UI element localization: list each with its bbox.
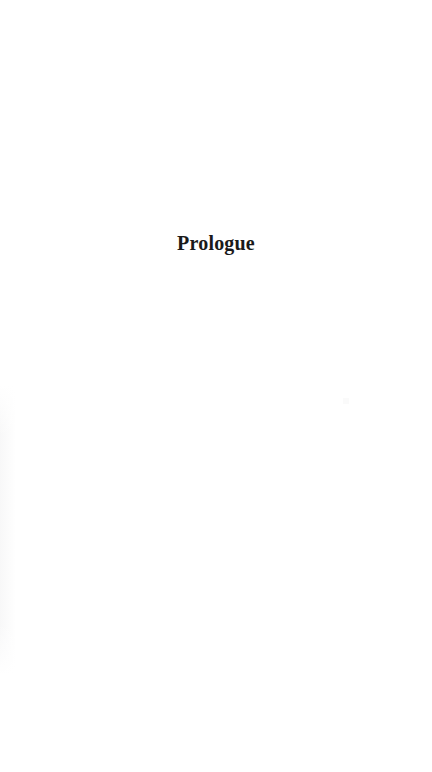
chapter-heading-title: Prologue xyxy=(177,230,255,256)
chapter-heading-block: Prologue xyxy=(0,230,432,256)
scan-dust-speck xyxy=(343,398,349,404)
book-page: Prologue xyxy=(0,0,432,772)
page-gutter-shadow xyxy=(0,385,16,675)
